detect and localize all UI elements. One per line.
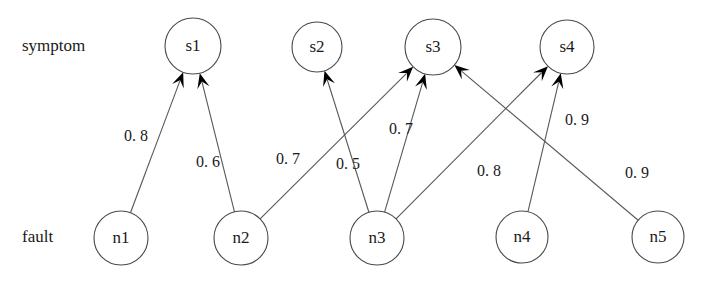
arrowheads-layer	[172, 65, 563, 90]
edge-weight-n3-s2: 0. 5	[336, 155, 360, 172]
edge-n4-to-s4	[528, 82, 559, 211]
edge-weight-n2-s3: 0. 7	[276, 150, 300, 167]
edge-weight-n1-s1: 0. 8	[124, 127, 148, 144]
node-label-n3: n3	[369, 228, 386, 247]
edge-n3-to-s4	[396, 73, 541, 219]
row-labels-layer: symptomfault	[22, 36, 85, 246]
edge-weight-n2-s1: 0. 6	[196, 153, 220, 170]
graph-canvas: 0. 80. 60. 70. 50. 70. 80. 90. 9 s1s2s3s…	[0, 0, 710, 283]
node-label-s3: s3	[425, 37, 440, 56]
node-n2[interactable]: n2	[214, 211, 268, 265]
edge-weight-n3-s3: 0. 7	[389, 120, 413, 137]
row-label-symptom: symptom	[22, 36, 85, 55]
row-label-fault: fault	[22, 227, 53, 246]
node-n5[interactable]: n5	[632, 211, 684, 263]
edge-n2-to-s1	[202, 82, 234, 212]
edge-n5-to-s3	[462, 71, 639, 220]
node-s1[interactable]: s1	[165, 18, 221, 74]
nodes-layer: s1s2s3s4n1n2n3n4n5	[94, 18, 684, 265]
node-label-n2: n2	[233, 228, 250, 247]
edge-weight-n5-s3: 0. 9	[625, 164, 649, 181]
node-s4[interactable]: s4	[540, 20, 594, 74]
node-s2[interactable]: s2	[292, 22, 342, 72]
node-label-s2: s2	[309, 37, 324, 56]
node-n3[interactable]: n3	[350, 211, 404, 265]
node-label-n4: n4	[514, 227, 532, 246]
edge-weight-n3-s4: 0. 8	[477, 162, 501, 179]
edge-n3-to-s3	[385, 83, 423, 212]
node-n1[interactable]: n1	[94, 211, 148, 265]
edge-weights-layer: 0. 80. 60. 70. 50. 70. 80. 90. 9	[124, 111, 649, 181]
edge-n1-to-s1	[130, 81, 179, 213]
fault-symptom-diagram: 0. 80. 60. 70. 50. 70. 80. 90. 9 s1s2s3s…	[0, 0, 710, 283]
node-label-n5: n5	[650, 227, 667, 246]
node-n4[interactable]: n4	[496, 211, 548, 263]
node-s3[interactable]: s3	[405, 19, 461, 75]
node-label-n1: n1	[113, 228, 130, 247]
edges-layer	[130, 71, 638, 220]
edge-n2-to-s3	[260, 73, 406, 219]
edge-weight-n4-s4: 0. 9	[565, 111, 589, 128]
node-label-s1: s1	[185, 36, 200, 55]
node-label-s4: s4	[559, 37, 575, 56]
